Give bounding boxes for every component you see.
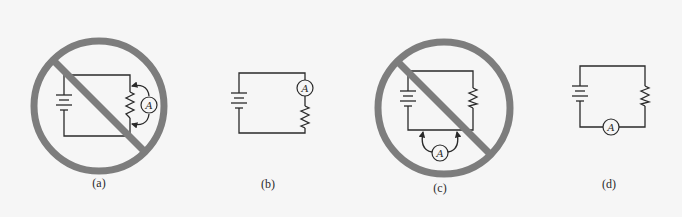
battery-icon — [400, 91, 416, 109]
ammeter-icon: A — [297, 80, 313, 96]
circuit-a: A — [56, 75, 157, 136]
panel-d: A (d) — [572, 66, 649, 191]
resistor-icon — [469, 88, 477, 108]
svg-text:A: A — [606, 122, 614, 133]
panel-label-a: (a) — [92, 176, 105, 190]
ammeter-icon: A — [603, 119, 619, 135]
svg-text:A: A — [144, 100, 152, 111]
battery-icon — [231, 93, 247, 111]
resistor-icon — [126, 92, 134, 118]
resistor-icon — [301, 106, 309, 128]
panel-label-d: (d) — [602, 177, 616, 191]
ammeter-icon: A — [141, 97, 157, 113]
resistor-icon — [641, 86, 649, 106]
svg-text:A: A — [300, 83, 308, 94]
ammeter-connection-figure: A (a) A (b) — [0, 0, 682, 217]
svg-text:A: A — [435, 148, 443, 159]
panel-c: A (c) — [378, 42, 510, 195]
panel-label-c: (c) — [433, 181, 446, 195]
ammeter-icon: A — [432, 145, 448, 161]
circuit-c: A — [400, 71, 477, 161]
battery-icon — [572, 86, 588, 104]
panel-label-b: (b) — [261, 177, 275, 191]
panel-b: A (b) — [231, 73, 313, 191]
panel-a: A (a) — [34, 41, 164, 190]
battery-icon — [56, 95, 72, 113]
